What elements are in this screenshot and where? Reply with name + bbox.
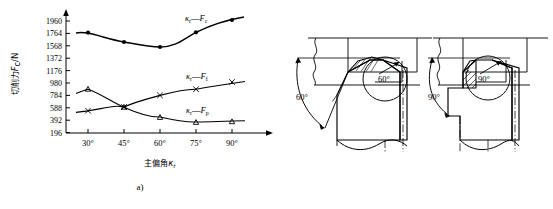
- angle-arc-90: [429, 60, 447, 114]
- y-tick-label: 784: [50, 91, 62, 100]
- x-axis-title: 主偏角κr: [144, 158, 176, 169]
- series-ff-line: [76, 82, 245, 113]
- y-tick-label: 392: [50, 116, 62, 125]
- series-fp-markers: [85, 86, 234, 124]
- series-ff-annotation: κr—Ff: [186, 71, 208, 82]
- diagram-panel-b: 60° 60° 90° 90° b): [280, 0, 553, 209]
- x-tick-marks: [88, 129, 232, 133]
- series-fc-annotation: κr—Fc: [185, 13, 208, 24]
- x-tick-labels: 30° 45° 60° 75° 90°: [82, 138, 238, 148]
- y-axis-title-cn: 切削力: [10, 71, 20, 95]
- series-fp-line: [76, 89, 245, 122]
- left-tool-outer-angle-label: 60°: [296, 92, 308, 102]
- chart-panel-a: 1960 1764 1568 1372 1176 980 784 588 392…: [0, 0, 280, 209]
- angle-arc-bottom-arrowhead: [319, 124, 325, 130]
- y-tick-label: 980: [50, 79, 62, 88]
- x-tick-label: 90°: [226, 138, 238, 148]
- y-tick-label: 1960: [46, 17, 62, 26]
- series-fc-line: [76, 17, 244, 47]
- y-tick-label: 1176: [46, 67, 62, 76]
- x-axis-title-cn: 主偏角: [144, 158, 168, 168]
- angle-arc-bottom-arrowhead: [444, 112, 450, 118]
- series-fc-markers: [86, 18, 234, 49]
- right-tool-assembly: [428, 38, 548, 152]
- x-axis-title-subscript: r: [173, 162, 176, 169]
- y-axis-title: 切削力Fc/N: [10, 53, 22, 96]
- bottom-break-line: [460, 140, 519, 150]
- y-tick-label: 1764: [46, 29, 62, 38]
- left-tool-inner-angle-label: 60°: [378, 74, 390, 84]
- svg-text:切削力Fc/N: 切削力Fc/N: [10, 53, 22, 96]
- y-tick-labels: 1960 1764 1568 1372 1176 980 784 588 392…: [46, 17, 62, 138]
- y-tick-marks: [66, 21, 70, 133]
- x-tick-label: 30°: [82, 138, 94, 148]
- break-line-wavy: [313, 38, 317, 85]
- right-tool-outer-angle-label: 90°: [428, 92, 440, 102]
- y-axis-arrow: [63, 9, 69, 16]
- left-tool-assembly: [295, 38, 432, 152]
- right-tool-inner-angle-label: 90°: [478, 74, 490, 84]
- y-tick-label: 1568: [46, 42, 62, 51]
- figure-root: 1960 1764 1568 1372 1176 980 784 588 392…: [0, 0, 553, 209]
- tool-geometry-diagrams: 60° 60° 90° 90°: [280, 0, 553, 182]
- x-tick-label: 75°: [190, 138, 202, 148]
- y-tick-label: 196: [50, 129, 62, 138]
- x-tick-label: 45°: [118, 138, 130, 148]
- force-vs-angle-chart: 1960 1764 1568 1372 1176 980 784 588 392…: [0, 0, 280, 182]
- x-tick-label: 60°: [154, 138, 166, 148]
- series-ff-markers: [85, 79, 235, 113]
- x-axis-arrow: [266, 130, 273, 136]
- y-tick-label: 588: [50, 104, 62, 113]
- panel-a-caption: a): [0, 182, 280, 192]
- y-tick-label: 1372: [46, 54, 62, 63]
- y-axis-title-unit: /N: [10, 53, 20, 62]
- bottom-break-line: [337, 140, 407, 150]
- series-fp-annotation: κr—Fp: [186, 105, 209, 116]
- break-line-wavy: [437, 38, 441, 85]
